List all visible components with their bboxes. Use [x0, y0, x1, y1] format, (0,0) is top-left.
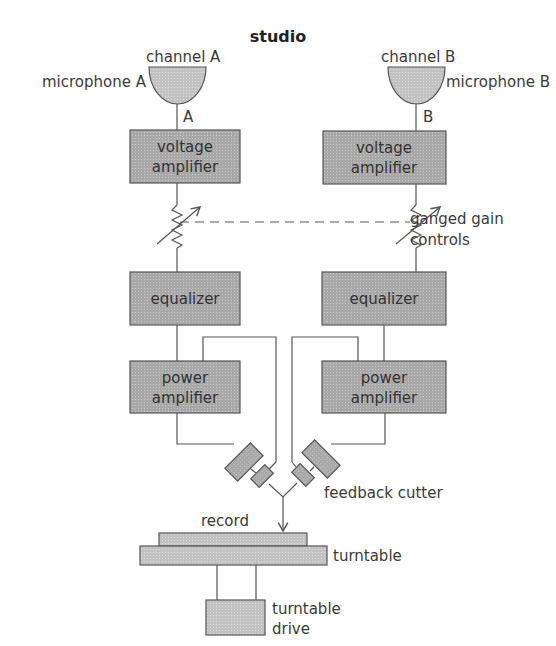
channel-b-label: channel B — [381, 48, 455, 66]
line-b-label: B — [423, 108, 433, 126]
power-amplifier-a-line1: power — [162, 369, 209, 387]
channel-b: channel B microphone B B voltage amplifi… — [292, 48, 550, 462]
equalizer-a-label: equalizer — [150, 290, 220, 308]
equalizer-b-label: equalizer — [349, 290, 419, 308]
gain-arrow-a-icon — [157, 207, 200, 244]
turntable-platter — [140, 546, 327, 565]
channel-a-label: channel A — [146, 48, 221, 66]
drive-wire-b — [331, 413, 385, 444]
turntable-drive-label-line2: drive — [272, 620, 310, 638]
microphone-b-label: microphone B — [446, 73, 550, 91]
channel-a: channel A microphone A A voltage amplifi… — [42, 48, 276, 462]
voltage-amplifier-b-line2: amplifier — [351, 159, 418, 177]
power-amplifier-b-line2: amplifier — [351, 389, 418, 407]
feedback-cutter-label: feedback cutter — [324, 484, 443, 502]
microphone-a-label: microphone A — [42, 73, 147, 91]
line-a-label: A — [183, 108, 194, 126]
stereo-recording-diagram: studio channel A microphone A A voltage … — [0, 0, 556, 646]
ganged-gain-label-line1: ganged gain — [410, 210, 504, 228]
voltage-amplifier-a-line1: voltage — [157, 138, 213, 156]
microphone-b-icon — [388, 67, 445, 104]
drive-wire-a — [177, 413, 234, 444]
voltage-amplifier-a-line2: amplifier — [152, 158, 219, 176]
cutter-stylus-v — [269, 483, 297, 497]
voltage-amplifier-b-line1: voltage — [356, 139, 412, 157]
turntable-drive-box — [206, 600, 265, 635]
record-label: record — [201, 512, 249, 530]
cutter-feedback-coil-b — [292, 464, 315, 487]
diagram-title: studio — [250, 27, 307, 46]
power-amplifier-a-line2: amplifier — [152, 389, 219, 407]
ganged-gain-label-line2: controls — [410, 231, 470, 249]
turntable-drive-label-line1: turntable — [272, 600, 341, 618]
record-disc — [159, 533, 307, 546]
power-amplifier-b-line1: power — [361, 369, 408, 387]
turntable-label: turntable — [333, 547, 402, 565]
microphone-a-icon — [149, 67, 206, 104]
